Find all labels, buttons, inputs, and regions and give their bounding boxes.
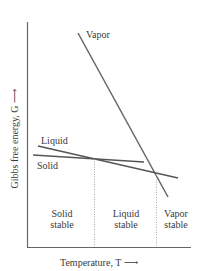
x-axis-label: Temperature, T ⟶: [60, 257, 138, 268]
region-solid-stable: Solid stable: [44, 208, 80, 230]
region-label-line2: stable: [44, 219, 80, 230]
region-label-line1: Vapor: [159, 208, 193, 219]
region-label-line2: stable: [108, 219, 144, 230]
region-label-line2: stable: [159, 219, 193, 230]
y-axis-label: Gibbs free energy, G ⟶: [9, 75, 20, 203]
gibbs-diagram: [0, 0, 199, 271]
solid-label: Solid: [37, 160, 58, 171]
region-label-line1: Solid: [44, 208, 80, 219]
region-vapor-stable: Vapor stable: [159, 208, 193, 230]
region-liquid-stable: Liquid stable: [108, 208, 144, 230]
region-label-line1: Liquid: [108, 208, 144, 219]
liquid-line: [38, 146, 178, 178]
liquid-label: Liquid: [41, 135, 68, 146]
vapor-label: Vapor: [86, 29, 110, 40]
